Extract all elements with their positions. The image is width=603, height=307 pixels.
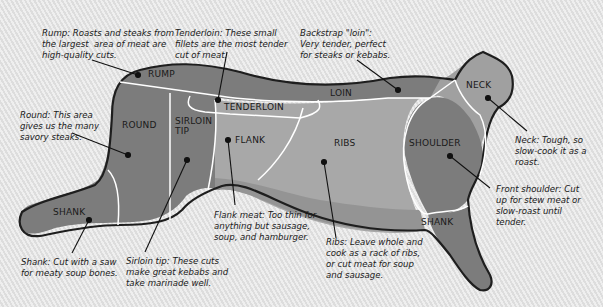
cut-label-shoulder: SHOULDER: [409, 138, 461, 148]
animal-body: [19, 52, 513, 290]
note-rump: Rump: Roasts and steaks from the largest…: [42, 28, 174, 61]
cut-label-flank: FLANK: [235, 135, 265, 145]
note-flank: Flank meat: Too thin for anything but sa…: [214, 210, 316, 243]
cut-label-sirloin-tip: SIRLOIN TIP: [175, 116, 212, 136]
cut-label-neck: NECK: [466, 80, 491, 90]
cut-label-tenderloin: TENDERLOIN: [224, 102, 284, 112]
note-round: Round: This area gives us the many savor…: [20, 110, 99, 143]
cut-label-round: ROUND: [122, 120, 157, 130]
cut-label-rump: RUMP: [148, 69, 175, 79]
note-sirloin-tip: Sirloin tip: These cuts make great kebab…: [126, 256, 228, 289]
cut-label-ribs: RIBS: [334, 138, 355, 148]
note-shank: Shank: Cut with a saw for meaty soup bon…: [21, 257, 118, 279]
cut-label-shank-rear: SHANK: [53, 207, 85, 217]
cut-label-loin: LOIN: [330, 88, 352, 98]
note-neck: Neck: Tough, so slow-cook it as a roast.: [515, 135, 586, 168]
cut-label-shank-front: SHANK: [421, 217, 453, 227]
note-tenderloin: Tenderloin: These small fillets are the …: [175, 28, 287, 61]
note-shoulder: Front shoulder: Cut up for stew meat or …: [496, 184, 581, 228]
note-ribs: Ribs: Leave whole and cook as a rack of …: [326, 237, 423, 281]
note-backstrap: Backstrap "loin": Very tender, perfect f…: [300, 28, 390, 61]
